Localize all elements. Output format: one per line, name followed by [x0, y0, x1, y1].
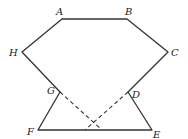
label-b: B [124, 6, 132, 17]
label-g: G [47, 85, 55, 96]
dashed-line-d [85, 92, 128, 130]
label-d: D [131, 89, 140, 100]
label-c: C [171, 47, 179, 58]
label-a: A [55, 6, 63, 17]
dashed-line-g [60, 92, 102, 130]
label-h: H [8, 47, 18, 58]
label-f: F [26, 126, 35, 137]
polygon-outline [22, 19, 168, 130]
geometry-diagram: A B C D E F G H [0, 0, 188, 139]
label-e: E [152, 129, 161, 139]
